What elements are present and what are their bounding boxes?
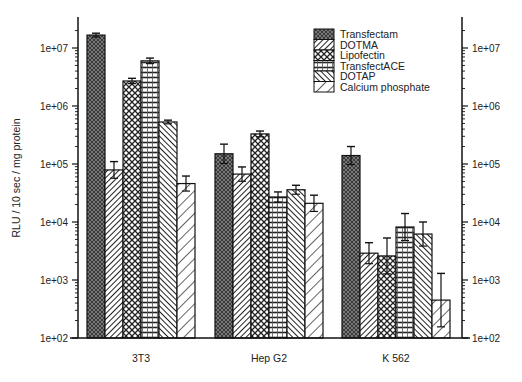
bar-transfectace xyxy=(396,227,414,338)
bar-calcium-phosphate xyxy=(177,184,195,338)
bar-dotap xyxy=(287,190,305,338)
bar-group-3t3: 3T3 xyxy=(87,33,195,364)
legend-swatch xyxy=(314,61,334,72)
right-y-tick-label: 1e+03 xyxy=(472,275,501,286)
left-y-tick-label: 1e+04 xyxy=(40,217,69,228)
bar-group-hep-g2: Hep G2 xyxy=(215,131,323,364)
bar-transfectam xyxy=(342,156,360,338)
bar-lipofectin xyxy=(251,134,269,338)
bar-transfectace xyxy=(141,61,159,338)
bar-dotma xyxy=(233,174,251,338)
bar-lipofectin xyxy=(123,81,141,338)
bar-transfectam xyxy=(87,35,105,338)
bar-group-k-562: K 562 xyxy=(342,147,450,364)
right-y-tick-label: 1e+04 xyxy=(472,217,501,228)
left-y-tick-label: 1e+07 xyxy=(40,43,69,54)
bar-dotma xyxy=(105,170,123,338)
x-tick-label: Hep G2 xyxy=(251,352,287,364)
bar-dotma xyxy=(360,253,378,338)
bar-chart: 3T3Hep G2K 562 1e+021e+021e+031e+031e+04… xyxy=(0,0,522,382)
left-y-tick-label: 1e+02 xyxy=(40,333,69,344)
left-y-tick-label: 1e+03 xyxy=(40,275,69,286)
y-axis-title: RLU / 10 sec / mg protein xyxy=(10,118,22,237)
left-y-tick-label: 1e+06 xyxy=(40,101,69,112)
x-tick-label: K 562 xyxy=(382,352,410,364)
legend-swatch xyxy=(314,71,334,82)
bar-transfectace xyxy=(269,197,287,338)
legend-swatch xyxy=(314,29,334,40)
legend-swatch xyxy=(314,50,334,61)
right-y-tick-label: 1e+06 xyxy=(472,101,501,112)
x-tick-label: 3T3 xyxy=(132,352,150,364)
bar-dotap xyxy=(159,122,177,338)
legend-label: Calcium phosphate xyxy=(340,81,430,93)
legend-swatch xyxy=(314,82,334,93)
left-y-tick-label: 1e+05 xyxy=(40,159,69,170)
bar-calcium-phosphate xyxy=(305,203,323,338)
legend-swatch xyxy=(314,40,334,51)
bar-dotap xyxy=(414,234,432,338)
right-y-tick-label: 1e+02 xyxy=(472,333,501,344)
legend: TransfectamDOTMALipofectinTransfectACEDO… xyxy=(314,28,430,93)
right-y-tick-label: 1e+07 xyxy=(472,43,501,54)
right-y-tick-label: 1e+05 xyxy=(472,159,501,170)
bar-transfectam xyxy=(215,154,233,338)
